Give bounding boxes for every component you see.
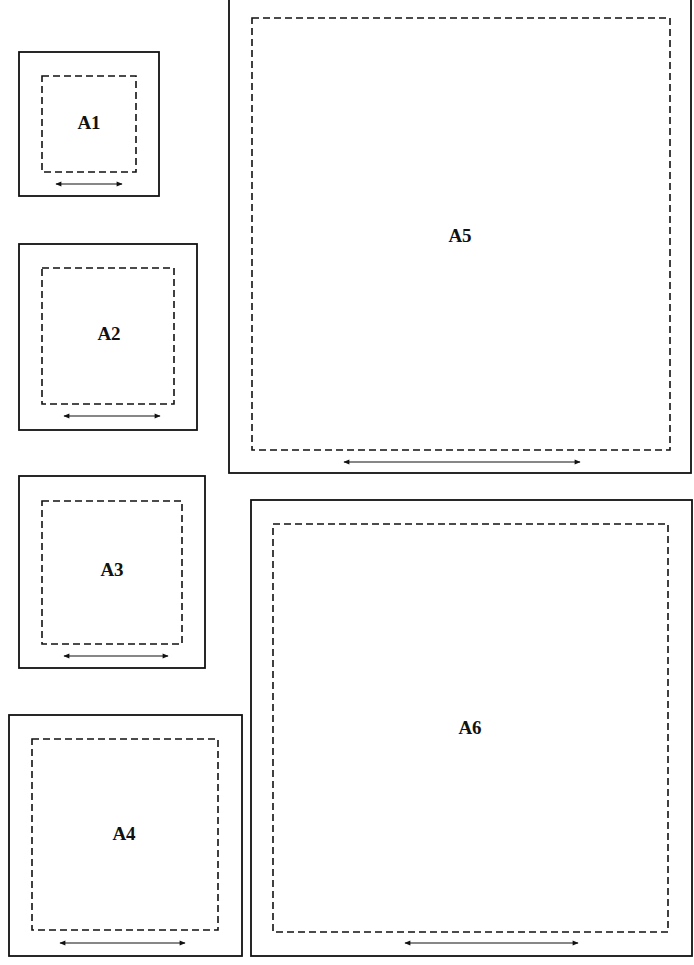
panel-label: A1 xyxy=(77,112,100,133)
panel-label: A3 xyxy=(100,559,123,580)
frames-diagram: A1A2A3A4A5A6 xyxy=(0,0,694,965)
panel-a5: A5 xyxy=(229,0,691,473)
panel-a3: A3 xyxy=(19,476,205,668)
panel-label: A4 xyxy=(112,823,136,844)
panel-a1: A1 xyxy=(19,52,159,196)
panel-label: A2 xyxy=(97,323,120,344)
panel-a6: A6 xyxy=(251,500,692,956)
panel-a4: A4 xyxy=(9,715,242,956)
panel-a2: A2 xyxy=(19,244,197,430)
panel-label: A6 xyxy=(458,717,481,738)
panel-label: A5 xyxy=(448,225,471,246)
